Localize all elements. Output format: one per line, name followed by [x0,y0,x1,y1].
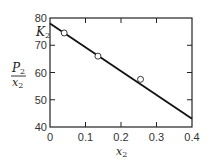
plot-frame [50,18,192,127]
x-tick-labels: 0 0.1 0.2 0.3 0.4 [47,131,200,143]
x-axis-label: x2 [116,145,127,159]
y-tick-60: 60 [35,67,47,79]
fit-line [50,23,192,118]
x-tick-0-1: 0.1 [78,131,93,143]
series-layer [50,23,192,118]
svg-text:P2: P2 [11,61,25,76]
chart-canvas: 80 70 60 50 40 0 0.1 0.2 0.3 0.4 K2 P2 x… [0,0,209,162]
x-tick-0-3: 0.3 [149,131,164,143]
y-ticks [50,45,192,100]
y-tick-40: 40 [35,121,47,133]
x-ticks [86,18,157,127]
k2-label: K2 [35,25,50,40]
svg-text:x2: x2 [12,76,23,90]
data-point-marker [95,53,101,59]
x-tick-0-2: 0.2 [113,131,128,143]
x-tick-0: 0 [47,131,53,143]
y-tick-80: 80 [35,12,47,24]
y-tick-70: 70 [35,39,47,51]
y-tick-50: 50 [35,94,47,106]
y-axis-label: P2 x2 [11,61,26,90]
data-point-marker [61,30,67,36]
x-tick-0-4: 0.4 [184,131,199,143]
data-point-marker [138,76,144,82]
